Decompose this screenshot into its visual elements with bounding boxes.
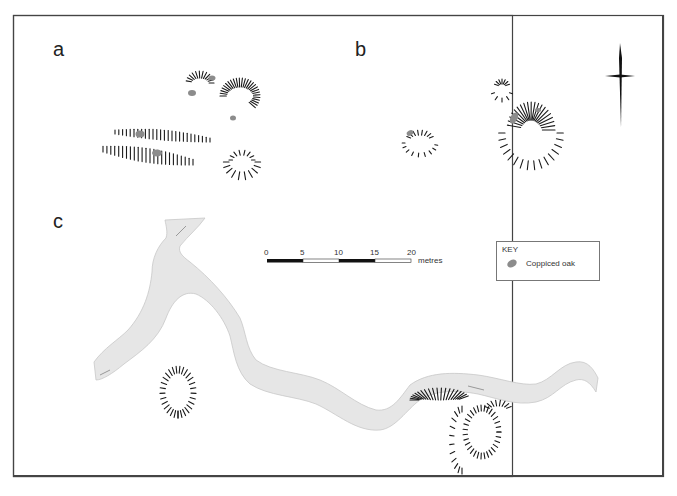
hachure-stroke	[452, 418, 456, 422]
hachure-stroke	[455, 464, 458, 469]
hachure-stroke	[253, 92, 260, 94]
hachure-stroke	[413, 131, 415, 135]
hachure-stroke	[520, 160, 523, 169]
hachure-stroke	[234, 152, 237, 156]
hachure-stroke	[172, 367, 174, 374]
oak-marker	[230, 116, 236, 121]
scale-bar	[267, 259, 411, 263]
hachure-stroke	[477, 452, 479, 458]
hachure-stroke	[191, 388, 196, 389]
hachure-stroke	[433, 148, 436, 150]
hachure-stroke	[503, 80, 505, 84]
hachure-stroke	[489, 450, 492, 455]
hachure-stroke	[499, 139, 506, 140]
hachure-stroke	[163, 377, 168, 380]
hachure-stroke	[224, 165, 230, 167]
hachure-stroke	[407, 137, 411, 138]
hachure-stroke	[161, 382, 166, 384]
hachure-stroke	[252, 168, 257, 173]
hachure-stroke	[241, 78, 242, 87]
hachure-stroke	[541, 126, 554, 128]
hachure-stroke	[244, 150, 245, 155]
hachure-stroke	[548, 154, 554, 160]
hachure-stroke	[221, 91, 228, 93]
hachure-stroke	[507, 125, 520, 127]
hachure-stroke	[424, 153, 425, 157]
scale-unit: metres	[418, 256, 442, 265]
coppiced-oaks	[136, 76, 542, 157]
hachure-stroke	[196, 72, 198, 79]
hachure-stroke	[493, 444, 497, 447]
hachure-stroke	[166, 373, 170, 378]
hachure-stroke	[238, 172, 239, 180]
hachure-stroke	[489, 409, 492, 414]
hachure-stroke	[507, 407, 512, 409]
hachure-stroke	[496, 400, 497, 406]
hachure-stroke	[441, 388, 442, 400]
hachure-stroke	[226, 84, 232, 90]
hachure-stroke	[450, 444, 454, 445]
scale-tick-0: 0	[264, 248, 268, 257]
hachure-stroke	[187, 405, 192, 409]
hachure-stroke	[491, 412, 495, 416]
hachure-stroke	[495, 84, 499, 85]
hachure-stroke	[450, 452, 455, 454]
hachure-stroke	[499, 400, 500, 406]
hachure-stroke	[174, 411, 176, 418]
hachure-stroke	[495, 97, 497, 100]
hachure-stroke	[429, 137, 433, 138]
hachure-stroke	[544, 157, 548, 165]
hachure-stroke	[190, 398, 195, 400]
hachure-stroke	[187, 78, 192, 81]
hachure-stroke	[167, 408, 171, 413]
hachure-stroke	[458, 467, 460, 473]
hachure-stroke	[514, 157, 518, 165]
hachure-stroke	[477, 406, 479, 412]
north-arrow-icon	[605, 43, 635, 128]
hachure-stroke	[249, 171, 253, 178]
oak-marker	[152, 150, 162, 157]
hachure-stroke	[164, 405, 169, 409]
hachure-stroke	[189, 382, 194, 384]
hachure-stroke	[179, 366, 180, 373]
hachure-stroke	[452, 458, 456, 462]
hachure-stroke	[493, 417, 497, 420]
panel-label-b: b	[355, 38, 366, 61]
hachure-stroke	[495, 421, 500, 423]
hachure-stroke	[505, 82, 508, 85]
hachure-stroke	[487, 404, 491, 407]
hachure-stroke	[491, 401, 494, 406]
oak-marker	[209, 76, 216, 81]
hachure-stroke	[504, 150, 510, 155]
hachure-stroke	[491, 448, 495, 452]
hachure-stroke	[464, 439, 469, 440]
hachure-stroke	[239, 150, 240, 155]
hachure-stroke	[406, 150, 409, 152]
hachure-stroke	[505, 404, 509, 407]
hachure-stroke	[496, 82, 499, 85]
hachure-stroke	[254, 165, 260, 167]
hachure-stroke	[435, 145, 438, 146]
oak-marker	[535, 108, 541, 112]
hachure-stroke	[474, 451, 477, 456]
key-label-coppiced-oak: Coppiced oak	[526, 259, 575, 268]
coppiced-oak-swatch-icon	[506, 258, 518, 269]
hachure-stroke	[468, 414, 472, 418]
hachure-stroke	[418, 130, 419, 135]
hachure-stroke	[527, 161, 528, 170]
hachure-stroke	[499, 80, 501, 84]
map-key: KEY Coppiced oak	[496, 241, 600, 281]
hachure-stroke	[465, 443, 469, 446]
hachure-stroke	[160, 388, 165, 389]
hachure-stroke	[455, 412, 458, 417]
hachure-stroke	[185, 408, 189, 413]
hachure-stroke	[429, 151, 431, 154]
hachure-stroke	[501, 144, 508, 147]
hachure-stroke	[450, 426, 455, 428]
hachure-stroke	[188, 377, 193, 380]
hachure-stroke	[161, 398, 166, 400]
hachure-stroke	[492, 93, 495, 94]
hachure-stroke	[183, 409, 186, 415]
hachure-stroke	[507, 97, 509, 100]
hachure-stroke	[169, 370, 173, 376]
